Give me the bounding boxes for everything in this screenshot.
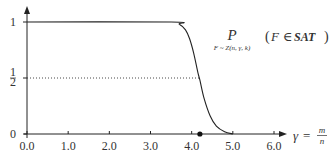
x-label-equals: = [303, 128, 310, 143]
y-axis-arrow-icon [24, 6, 30, 14]
x-label-denominator: n [320, 136, 325, 146]
annotation-in: ∈ [283, 29, 293, 44]
x-tick-label: 1.0 [61, 139, 76, 153]
annotation-subscript: F ~ Z(n, γ, k) [213, 44, 251, 52]
annotation-set: SAT [294, 30, 316, 44]
x-tick-label: 5.0 [225, 139, 240, 153]
markers [197, 131, 202, 136]
curve-annotation: P F ~ Z(n, γ, k) ( F ∈ SAT ) [213, 27, 329, 52]
x-axis-arrow-icon [279, 131, 287, 137]
x-tick-label: 4.0 [184, 139, 199, 153]
y-tick-label: 1 [10, 15, 16, 29]
y-ticks: 0121 [10, 15, 27, 141]
axes [24, 6, 287, 138]
x-tick-label: 0.0 [20, 139, 35, 153]
x-tick-label: 2.0 [102, 139, 117, 153]
annotation-open-paren: ( [265, 29, 270, 45]
sat-threshold-chart: 0.01.02.03.04.05.06.0 0121 γ = m n P F ~… [0, 0, 336, 160]
x-tick-label: 3.0 [143, 139, 158, 153]
y-tick-label-half-denominator: 2 [10, 75, 16, 89]
x-axis-label: γ = m n [293, 125, 327, 146]
annotation-close-paren: ) [324, 29, 329, 45]
x-label-symbol: γ [293, 128, 299, 143]
annotation-prob: P [226, 27, 236, 43]
y-tick-label: 0 [10, 127, 16, 141]
annotation-var: F [270, 29, 280, 44]
x-tick-label: 6.0 [267, 139, 282, 153]
threshold-marker [197, 131, 202, 136]
x-label-numerator: m [319, 125, 326, 135]
